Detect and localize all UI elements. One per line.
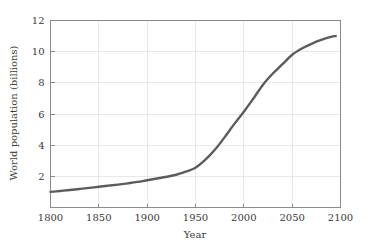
x-tick-label: 1800 xyxy=(38,212,63,223)
world-population-line-chart: 1800185019001950200020502100 24681012 Ye… xyxy=(0,0,369,247)
x-tick-label: 1850 xyxy=(86,212,111,223)
y-axis-title: World population (billions) xyxy=(8,45,19,180)
x-tick-label: 1900 xyxy=(134,212,159,223)
x-tick-label: 1950 xyxy=(183,212,208,223)
y-tick-label: 8 xyxy=(38,77,44,88)
y-tick-label: 12 xyxy=(32,15,45,26)
population-chart-figure: 1800185019001950200020502100 24681012 Ye… xyxy=(0,0,369,247)
x-tick-label: 2100 xyxy=(328,212,353,223)
y-tick-label: 6 xyxy=(38,109,44,120)
y-tick-label: 10 xyxy=(32,46,45,57)
x-axis-title: Year xyxy=(183,229,207,240)
x-tick-label: 2050 xyxy=(279,212,304,223)
y-tick-label: 4 xyxy=(38,140,44,151)
y-tick-label: 2 xyxy=(38,171,44,182)
chart-background xyxy=(0,0,369,247)
x-tick-label: 2000 xyxy=(231,212,256,223)
